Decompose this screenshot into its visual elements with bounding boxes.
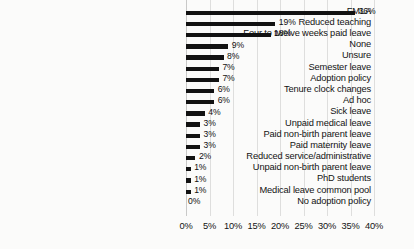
- plot-area: FMLA36%Reduced teaching19%Four to twelve…: [186, 0, 374, 216]
- category-label: Semester leave: [309, 62, 372, 73]
- category-label: Paid maternity leave: [290, 140, 371, 151]
- category-label: PhD students: [317, 173, 371, 184]
- bar-value-label: 3%: [204, 140, 216, 151]
- bar-value-label: 6%: [218, 84, 230, 95]
- bar: [186, 55, 224, 59]
- bar-row: None9%: [186, 41, 414, 52]
- bar-row: Unpaid non-birth parent leave1%: [186, 164, 414, 175]
- x-tick-label: 35%: [341, 220, 359, 232]
- bar-rows: FMLA36%Reduced teaching19%Four to twelve…: [186, 0, 374, 216]
- bar-value-label: 3%: [204, 129, 216, 140]
- category-label: Paid non-birth parent leave: [263, 129, 371, 140]
- bar-value-label: 1%: [194, 185, 206, 196]
- category-label: Reduced teaching: [298, 17, 371, 28]
- bar: [186, 100, 214, 104]
- bar: [186, 44, 228, 48]
- bar-value-label: 7%: [222, 73, 234, 84]
- bar-row: Four to twelve weeks paid leave18%: [186, 30, 414, 41]
- x-tick-label: 20%: [271, 220, 289, 232]
- bar-value-label: 18%: [274, 28, 291, 39]
- bar: [186, 111, 205, 115]
- category-label: No adoption policy: [297, 196, 371, 207]
- bar-value-label: 4%: [208, 107, 220, 118]
- x-axis-tick-labels: 0%5%10%15%20%25%30%35%40%: [0, 216, 414, 236]
- bar-value-label: 8%: [227, 51, 239, 62]
- bar: [186, 11, 355, 15]
- bar: [186, 33, 271, 37]
- category-label: Ad hoc: [343, 95, 371, 106]
- x-tick-label: 10%: [224, 220, 242, 232]
- x-tick-label: 0%: [179, 220, 192, 232]
- category-label: Sick leave: [330, 106, 371, 117]
- bar-value-label: 36%: [359, 6, 376, 17]
- bar: [186, 178, 191, 182]
- category-label: Reduced service/administrative: [246, 151, 371, 162]
- category-label: Adoption policy: [310, 73, 371, 84]
- bar-value-label: 0%: [188, 196, 200, 207]
- bar-row: No adoption policy0%: [186, 197, 414, 208]
- x-tick-label: 30%: [318, 220, 336, 232]
- bar-value-label: 2%: [199, 151, 211, 162]
- x-tick-label: 15%: [247, 220, 265, 232]
- category-label: Unsure: [342, 50, 371, 61]
- bar: [186, 134, 200, 138]
- bar-value-label: 9%: [232, 40, 244, 51]
- bar: [186, 22, 275, 26]
- bar-value-label: 3%: [204, 118, 216, 129]
- bar: [186, 89, 214, 93]
- bar: [186, 145, 200, 149]
- bar: [186, 67, 219, 71]
- bar-value-label: 1%: [194, 174, 206, 185]
- bar-value-label: 7%: [222, 62, 234, 73]
- x-tick-label: 5%: [203, 220, 216, 232]
- bar-row: Semester leave7%: [186, 63, 414, 74]
- bar: [186, 78, 219, 82]
- bar: [186, 122, 200, 126]
- bar-row: Unsure8%: [186, 52, 414, 63]
- bar-value-label: 19%: [279, 17, 296, 28]
- bar-value-label: 1%: [194, 162, 206, 173]
- category-label: Tenure clock changes: [284, 84, 371, 95]
- category-label: None: [349, 39, 371, 50]
- category-label: Medical leave common pool: [260, 185, 372, 196]
- x-tick-label: 40%: [365, 220, 383, 232]
- bar: [186, 167, 191, 171]
- bar-value-label: 6%: [218, 95, 230, 106]
- category-label: Unpaid non-birth parent leave: [253, 162, 371, 173]
- category-label: Unpaid medical leave: [285, 118, 371, 129]
- bar-chart: FMLA36%Reduced teaching19%Four to twelve…: [0, 0, 414, 249]
- bar: [186, 156, 195, 160]
- bar: [186, 190, 191, 194]
- x-tick-label: 25%: [294, 220, 312, 232]
